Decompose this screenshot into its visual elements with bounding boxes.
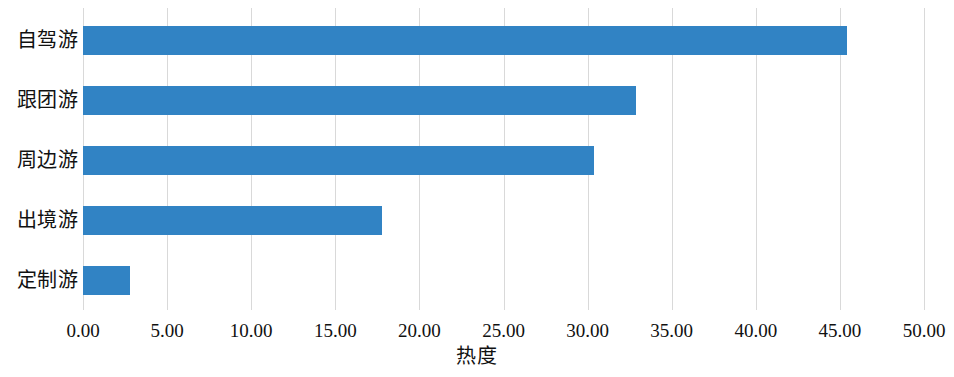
- value-axis: 0.005.0010.0015.0020.0025.0030.0035.0040…: [0, 312, 954, 342]
- category-label: 周边游: [0, 146, 78, 175]
- table-row: [83, 190, 924, 250]
- bar-nearby-tour: [83, 146, 594, 175]
- category-label: 定制游: [0, 266, 78, 295]
- plot-area: [83, 8, 924, 310]
- table-row: [83, 130, 924, 190]
- x-tick-label: 15.00: [314, 320, 357, 342]
- bar-series: [83, 8, 924, 310]
- x-tick-label: 25.00: [482, 320, 525, 342]
- bar-self-drive: [83, 26, 847, 55]
- x-tick-label: 0.00: [66, 320, 99, 342]
- x-tick-label: 50.00: [903, 320, 946, 342]
- x-tick-label: 40.00: [734, 320, 777, 342]
- x-tick-label: 5.00: [150, 320, 183, 342]
- x-tick-label: 10.00: [230, 320, 273, 342]
- table-row: [83, 70, 924, 130]
- x-tick-label: 30.00: [566, 320, 609, 342]
- x-axis-title: 热度: [0, 344, 954, 368]
- x-tick-label: 35.00: [650, 320, 693, 342]
- category-axis: 自驾游 跟团游 周边游 出境游 定制游: [0, 8, 78, 310]
- x-tick-label: 20.00: [398, 320, 441, 342]
- x-tick-label: 45.00: [819, 320, 862, 342]
- category-label: 出境游: [0, 206, 78, 235]
- bar-group-tour: [83, 86, 636, 115]
- bar-chart: 自驾游 跟团游 周边游 出境游 定制游 0.005.0010.0015.0020…: [0, 0, 954, 377]
- table-row: [83, 10, 924, 70]
- bar-outbound-tour: [83, 206, 382, 235]
- category-label: 自驾游: [0, 26, 78, 55]
- bar-custom-tour: [83, 266, 130, 295]
- gridline: [924, 8, 925, 310]
- category-label: 跟团游: [0, 86, 78, 115]
- table-row: [83, 250, 924, 310]
